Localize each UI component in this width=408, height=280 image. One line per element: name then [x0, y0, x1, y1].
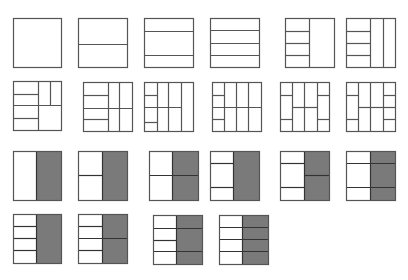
- shaded-region: [36, 214, 61, 263]
- partition-square-r1c6: [346, 18, 396, 68]
- partition-square-r4c4: [219, 215, 269, 265]
- partition-square-r2c4: [212, 82, 262, 132]
- partition-square-r2c6: [346, 82, 396, 132]
- square-background: [13, 18, 61, 67]
- shaded-region: [176, 215, 202, 264]
- square-background: [144, 18, 193, 67]
- partition-square-r3c5: [280, 151, 330, 201]
- partition-square-r1c1: [13, 18, 62, 68]
- partition-square-r3c2: [78, 151, 128, 201]
- partition-square-r3c6: [346, 151, 396, 201]
- partition-square-r2c3: [144, 82, 194, 132]
- square-background: [83, 82, 132, 131]
- square-background: [78, 18, 127, 67]
- partition-square-r1c5: [285, 18, 335, 68]
- shaded-region: [370, 151, 395, 200]
- partition-square-r4c3: [153, 215, 203, 265]
- partition-square-r3c1: [13, 151, 62, 201]
- partition-square-r2c2: [83, 82, 133, 132]
- partition-square-r4c2: [78, 214, 128, 264]
- shaded-region: [102, 151, 127, 200]
- partition-diagram-canvas: [0, 0, 408, 280]
- partition-square-r1c4: [210, 18, 260, 68]
- partition-square-r1c3: [144, 18, 194, 68]
- partition-square-r4c1: [13, 214, 62, 264]
- partition-square-r2c5: [280, 82, 330, 132]
- partition-square-r2c1: [13, 81, 62, 131]
- shaded-region: [233, 151, 259, 200]
- square-background: [210, 18, 259, 67]
- shaded-region: [36, 151, 61, 200]
- partition-square-r3c4: [210, 151, 260, 201]
- partition-diagram: [0, 0, 408, 280]
- partition-square-r3c3: [149, 151, 199, 201]
- partition-square-r1c2: [78, 18, 128, 68]
